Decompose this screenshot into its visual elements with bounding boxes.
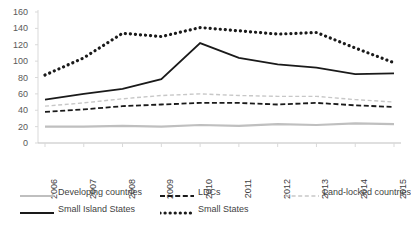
legend-item-land-locked-countries[interactable]: Land-locked countries [285,183,411,200]
chart-legend: Developing countriesLDCsLand-locked coun… [0,183,406,226]
series-line-small-island-states [45,43,394,100]
legend-label: Small Island States [58,204,135,214]
legend-swatch [20,204,54,214]
legend-swatch [160,204,194,214]
legend-label: Small States [198,204,249,214]
plot-area: 020406080100120140160 [0,0,406,160]
legend-row-2: Small Island StatesSmall States [0,200,406,217]
legend-item-developing-countries[interactable]: Developing countries [20,183,142,200]
legend-swatch [285,187,319,197]
legend-row-1: Developing countriesLDCsLand-locked coun… [0,183,406,200]
legend-label: Land-locked countries [323,187,411,197]
legend-swatch [20,187,54,197]
legend-label: Developing countries [58,187,142,197]
chart-plot-svg [0,0,406,160]
legend-swatch [160,187,194,197]
legend-item-small-states[interactable]: Small States [160,200,249,217]
series-line-ldcs [45,103,394,112]
legend-label: LDCs [198,187,221,197]
legend-item-small-island-states[interactable]: Small Island States [20,200,135,217]
legend-item-ldcs[interactable]: LDCs [160,183,221,200]
series-line-developing-countries [45,123,394,126]
x-axis-labels: 2006200720082009201020112012201320142015 [0,145,406,185]
